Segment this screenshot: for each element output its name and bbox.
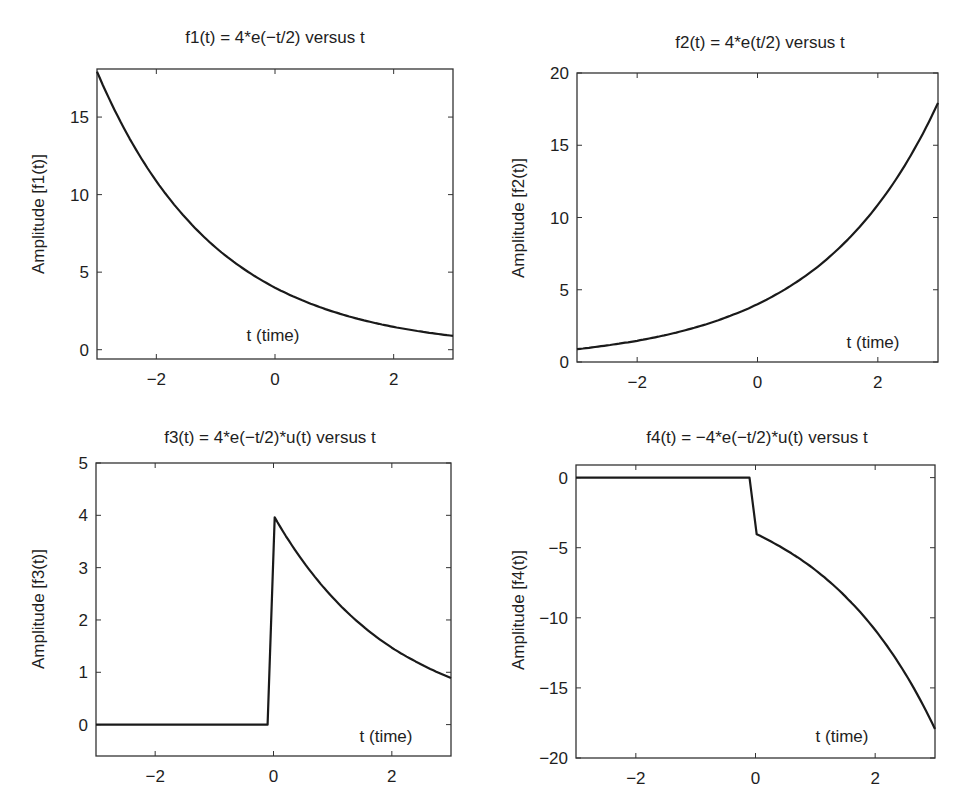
- y-ticks: 051015: [70, 108, 453, 360]
- y-ticks: 05101520: [550, 64, 938, 372]
- subplot-title: f3(t) = 4*e(−t/2)*u(t) versus t: [164, 428, 376, 447]
- subplot-title: f2(t) = 4*e(t/2) versus t: [675, 33, 845, 52]
- subplot-f3: f3(t) = 4*e(−t/2)*u(t) versus t Amplitud…: [29, 428, 451, 786]
- x-tick-label: 0: [751, 769, 760, 788]
- y-tick-label: 0: [80, 341, 89, 360]
- y-tick-label: 5: [79, 454, 88, 473]
- subplot-f4: f4(t) = −4*e(−t/2)*u(t) versus t Amplitu…: [509, 428, 935, 788]
- y-tick-label: 0: [559, 469, 568, 488]
- x-axis-label: t (time): [360, 727, 413, 746]
- data-line: [97, 72, 453, 336]
- x-axis-label: t (time): [247, 326, 300, 345]
- x-tick-label: 2: [389, 370, 398, 389]
- x-tick-label: −2: [626, 769, 645, 788]
- x-axis-label: t (time): [847, 333, 900, 352]
- y-axis-label: Amplitude [f1(t)]: [29, 154, 48, 274]
- y-tick-label: 20: [550, 64, 569, 83]
- y-tick-label: 0: [79, 716, 88, 735]
- subplot-title: f1(t) = 4*e(−t/2) versus t: [185, 28, 365, 47]
- y-tick-label: 5: [560, 281, 569, 300]
- x-tick-label: 0: [753, 373, 762, 392]
- y-axis-label: Amplitude [f3(t)]: [29, 549, 48, 669]
- axes-frame: [577, 73, 938, 362]
- y-axis-label: Amplitude [f4(t)]: [509, 550, 528, 670]
- x-tick-label: −2: [147, 370, 166, 389]
- y-tick-label: 10: [550, 209, 569, 228]
- y-tick-label: 5: [80, 263, 89, 282]
- subplot-title: f4(t) = −4*e(−t/2)*u(t) versus t: [646, 428, 868, 447]
- x-tick-label: 0: [269, 767, 278, 786]
- data-line: [576, 478, 935, 729]
- y-tick-label: 15: [70, 108, 89, 127]
- x-tick-label: 0: [270, 370, 279, 389]
- y-tick-label: 1: [79, 663, 88, 682]
- y-tick-label: 10: [70, 186, 89, 205]
- x-tick-label: −2: [627, 373, 646, 392]
- x-tick-label: 2: [873, 373, 882, 392]
- x-axis-label: t (time): [816, 727, 869, 746]
- x-tick-label: 2: [387, 767, 396, 786]
- data-line: [96, 517, 451, 724]
- y-tick-label: 15: [550, 136, 569, 155]
- x-tick-label: 2: [870, 769, 879, 788]
- y-tick-label: −5: [549, 539, 568, 558]
- y-tick-label: 3: [79, 559, 88, 578]
- y-tick-label: −15: [539, 679, 568, 698]
- y-tick-label: 0: [560, 353, 569, 372]
- x-tick-label: −2: [145, 767, 164, 786]
- x-ticks: −202: [627, 73, 882, 392]
- axes-frame: [576, 465, 935, 758]
- axes-frame: [96, 463, 451, 756]
- y-axis-label: Amplitude [f2(t)]: [509, 158, 528, 278]
- subplot-f2: f2(t) = 4*e(t/2) versus t Amplitude [f2(…: [509, 33, 938, 392]
- y-ticks: 012345: [79, 454, 451, 735]
- subplot-f1: f1(t) = 4*e(−t/2) versus t Amplitude [f1…: [29, 28, 453, 389]
- data-line: [577, 103, 938, 349]
- axes-frame: [97, 69, 453, 359]
- y-tick-label: −20: [539, 749, 568, 768]
- y-tick-label: −10: [539, 609, 568, 628]
- y-tick-label: 2: [79, 611, 88, 630]
- y-ticks: −20−15−10−50: [539, 469, 935, 768]
- y-tick-label: 4: [79, 506, 88, 525]
- figure: f1(t) = 4*e(−t/2) versus t Amplitude [f1…: [0, 0, 961, 812]
